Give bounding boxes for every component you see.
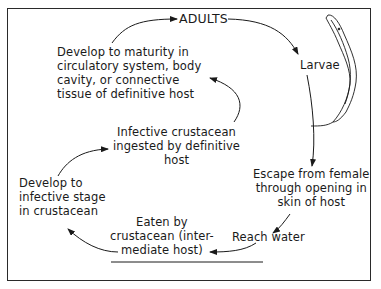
node-reach-water: Reach water	[232, 230, 305, 244]
node-larvae: Larvae	[300, 58, 340, 72]
node-eaten: Eaten by crustacean (inter- mediate host…	[110, 215, 214, 257]
arrow-adults-to-larvae	[228, 19, 298, 54]
node-ingested: Infective crustacean ingested by definit…	[113, 125, 240, 167]
arrow-larvae-to-escape	[307, 75, 314, 166]
arrow-water-to-eaten	[210, 243, 256, 252]
arrow-infective-to-ingested	[58, 149, 108, 176]
node-escape: Escape from female through opening in sk…	[253, 167, 370, 209]
node-develop-infective: Develop to infective stage in crustacean	[19, 176, 106, 218]
arrow-ingested-to-maturity	[210, 78, 240, 122]
node-adults: ADULTS	[179, 12, 228, 26]
arrow-maturity-to-adults	[112, 19, 177, 43]
node-develop-maturity: Develop to maturity in circulatory syste…	[57, 45, 201, 101]
